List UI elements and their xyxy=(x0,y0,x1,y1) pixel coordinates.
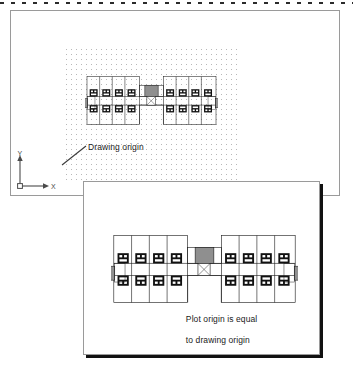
ucs-x-label: X xyxy=(51,183,56,190)
label-plot-origin-line1: Plot origin is equal xyxy=(186,314,257,324)
label-drawing-origin: Drawing origin xyxy=(88,142,144,153)
x-axis-arrow-icon xyxy=(43,183,49,188)
floor-plan-plot-space xyxy=(111,229,298,309)
core-block xyxy=(145,85,158,105)
label-plot-origin-line2: to drawing origin xyxy=(186,335,250,345)
illustration-stage: Y X Drawing origin xyxy=(0,0,353,365)
ucs-y-label: Y xyxy=(17,150,22,157)
ucs-icon: Y X xyxy=(14,150,58,194)
label-plot-origin: Plot origin is equal to drawing origin xyxy=(176,303,257,356)
dashed-separator-rule xyxy=(0,2,353,4)
ucs-origin-square xyxy=(18,184,23,189)
floor-plan-model-space xyxy=(85,72,218,129)
core-block xyxy=(195,248,214,276)
